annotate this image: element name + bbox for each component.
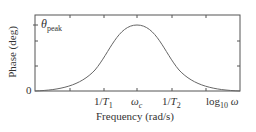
x-tick-log-omega: log10 ω bbox=[206, 95, 239, 110]
t2-num: 1/ bbox=[162, 95, 171, 107]
y-tick-theta-peak: θpeak bbox=[41, 17, 62, 33]
y-axis-label: Phase (deg) bbox=[6, 26, 18, 78]
t1-sub: 1 bbox=[109, 101, 113, 110]
x-tick-1-over-t1: 1/T1 bbox=[94, 95, 113, 110]
log-sub: 10 bbox=[220, 101, 228, 110]
y-tick-zero: 0 bbox=[26, 84, 32, 96]
plot-frame bbox=[35, 15, 240, 91]
t2-sub: 2 bbox=[177, 101, 181, 110]
omega-sub: c bbox=[139, 101, 143, 110]
log-omega: ω bbox=[228, 95, 239, 107]
x-tick-1-over-t2: 1/T2 bbox=[162, 95, 181, 110]
phase-curve bbox=[35, 25, 240, 91]
log-text: log bbox=[206, 95, 220, 107]
peak-subscript: peak bbox=[47, 24, 62, 33]
x-axis-label: Frequency (rad/s) bbox=[96, 110, 174, 122]
t1-num: 1/ bbox=[94, 95, 103, 107]
omega-symbol: ω bbox=[131, 95, 139, 107]
x-tick-omega-c: ωc bbox=[131, 95, 142, 110]
